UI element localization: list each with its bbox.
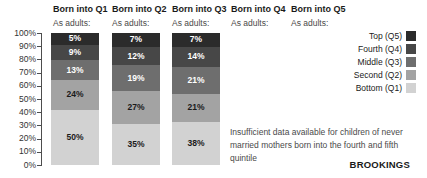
y-tick-label: 0% — [6, 161, 36, 170]
column-header-q5: Born into Q5 — [291, 4, 346, 14]
y-tick-label: 100% — [6, 29, 36, 38]
bar-q3: 7%14%21%21%38% — [172, 33, 220, 165]
legend-item: Top (Q5) — [354, 29, 416, 42]
y-axis-line — [41, 33, 42, 166]
mobility-chart: Born into Q1As adults:Born into Q2As adu… — [0, 0, 427, 178]
column-sublabel-q4: As adults: — [231, 18, 268, 28]
y-tick-label: 80% — [6, 55, 36, 64]
column-sublabel-q2: As adults: — [112, 18, 149, 28]
bar-segment: 50% — [51, 110, 99, 165]
bar-q2: 7%12%19%27%35% — [112, 33, 160, 165]
legend-swatch — [406, 70, 416, 80]
brookings-logo: BROOKINGS — [350, 159, 410, 170]
column-header-q1: Born into Q1 — [53, 4, 108, 14]
column-sublabel-q5: As adults: — [291, 18, 328, 28]
legend-item: Second (Q2) — [354, 69, 416, 82]
legend-swatch — [406, 57, 416, 67]
y-tick-label: 40% — [6, 108, 36, 117]
bar-segment: 12% — [112, 47, 160, 66]
column-header-q4: Born into Q4 — [231, 4, 286, 14]
y-tick-label: 70% — [6, 68, 36, 77]
bar-segment: 7% — [172, 33, 220, 47]
bar-segment: 9% — [51, 45, 99, 61]
bar-segment: 24% — [51, 80, 99, 110]
legend-item: Middle (Q3) — [354, 55, 416, 68]
column-sublabel-q3: As adults: — [172, 18, 209, 28]
bar-segment: 35% — [112, 124, 160, 165]
bar-segment: 21% — [172, 94, 220, 121]
y-tick-label: 90% — [6, 42, 36, 51]
y-tick-label: 10% — [6, 147, 36, 156]
bar-segment: 21% — [172, 67, 220, 94]
column-sublabel-q1: As adults: — [53, 18, 90, 28]
column-header-q2: Born into Q2 — [112, 4, 167, 14]
legend-item: Bottom (Q1) — [354, 82, 416, 95]
legend-swatch — [406, 44, 416, 54]
legend: Top (Q5)Fourth (Q4)Middle (Q3)Second (Q2… — [354, 29, 416, 95]
bar-q1: 5%9%13%24%50% — [51, 33, 99, 165]
legend-label: Top (Q5) — [369, 31, 402, 41]
legend-swatch — [406, 31, 416, 41]
legend-swatch — [406, 83, 416, 93]
y-tick-label: 30% — [6, 121, 36, 130]
bar-segment: 5% — [51, 33, 99, 45]
legend-label: Bottom (Q1) — [356, 83, 402, 93]
bar-segment: 13% — [51, 60, 99, 79]
column-header-q3: Born into Q3 — [172, 4, 227, 14]
bar-segment: 19% — [112, 65, 160, 90]
bar-segment: 7% — [112, 33, 160, 47]
legend-label: Middle (Q3) — [358, 57, 402, 67]
legend-item: Fourth (Q4) — [354, 42, 416, 55]
bar-segment: 14% — [172, 47, 220, 67]
bar-segment: 38% — [172, 122, 220, 166]
y-tick-label: 50% — [6, 95, 36, 104]
legend-label: Fourth (Q4) — [358, 44, 402, 54]
y-tick-label: 20% — [6, 134, 36, 143]
bar-segment: 27% — [112, 91, 160, 124]
y-tick-label: 60% — [6, 81, 36, 90]
legend-label: Second (Q2) — [354, 70, 402, 80]
